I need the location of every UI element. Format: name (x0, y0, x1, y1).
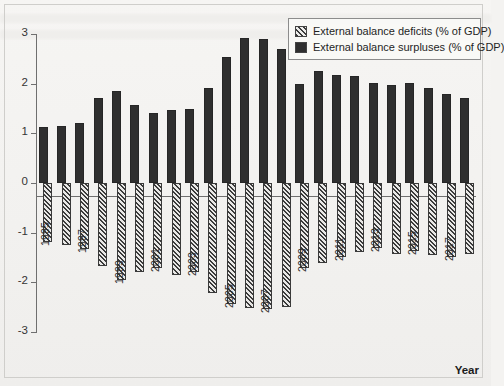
bar-surplus (130, 105, 139, 183)
bar-deficit (135, 183, 144, 272)
y-axis-tick-label: 2 (2, 76, 28, 88)
legend-label-surpluses: External balance surpluses (% of GDP) (313, 41, 504, 53)
bar-deficit (465, 183, 474, 254)
x-axis-tick-label: 2017 (443, 237, 455, 261)
bar-deficit (392, 183, 401, 254)
x-axis-tick-label: 2007 (259, 288, 271, 312)
bar-surplus (204, 88, 213, 183)
x-axis-tick-label: 2001 (149, 248, 161, 272)
y-axis-tick-label: 0 (2, 175, 28, 187)
bar-deficit (245, 183, 254, 308)
bar-surplus (387, 85, 396, 183)
bar-deficit (172, 183, 181, 275)
legend-swatch-surpluses-icon (295, 42, 307, 53)
bar-surplus (112, 91, 121, 183)
bar-deficit (355, 183, 364, 252)
bar-surplus (460, 98, 469, 183)
bar-surplus (167, 110, 176, 183)
y-axis-tick-label: 3 (2, 26, 28, 38)
legend-item: External balance surpluses (% of GDP) (295, 41, 474, 53)
bar-surplus (240, 38, 249, 183)
bar-deficit (208, 183, 217, 293)
bar-deficit (62, 183, 71, 245)
legend-item: External balance deficits (% of GDP) (295, 25, 474, 37)
bar-deficit (98, 183, 107, 266)
x-axis-tick-label: 1995 (39, 221, 51, 245)
x-axis-tick-label: 2009 (296, 248, 308, 272)
bar-surplus (369, 83, 378, 183)
bar-surplus (57, 126, 66, 183)
bar-deficit (428, 183, 437, 255)
bar-surplus (259, 39, 268, 183)
y-axis-tick-label: -3 (2, 324, 28, 336)
bar-surplus (405, 83, 414, 183)
x-axis-tick-label: 2005 (223, 284, 235, 308)
bar-surplus (222, 57, 231, 183)
chart-legend: External balance deficits (% of GDP) Ext… (288, 18, 481, 60)
bar-deficit (318, 183, 327, 263)
x-axis-tick-label: 1999 (113, 260, 125, 284)
legend-swatch-deficits-icon (295, 26, 307, 37)
x-axis-tick-label: 2015 (406, 231, 418, 255)
bar-surplus (295, 84, 304, 183)
bar-surplus (39, 127, 48, 183)
x-axis-tick-label: 2013 (369, 227, 381, 251)
x-axis-tick-label: 2011 (333, 237, 345, 260)
x-axis-tick-label: 2003 (186, 252, 198, 276)
legend-label-deficits: External balance deficits (% of GDP) (313, 25, 492, 37)
y-axis-tick-label: 1 (2, 125, 28, 137)
bar-surplus (332, 75, 341, 183)
bar-surplus (94, 98, 103, 183)
bar-series-area: 1995199719992001200320052007200920112013… (36, 34, 476, 332)
bar-surplus (350, 76, 359, 183)
bar-surplus (185, 109, 194, 183)
x-axis-tick-label: 1997 (76, 229, 88, 253)
y-axis-tick-label: -1 (2, 225, 28, 237)
y-axis-tick (31, 332, 37, 333)
bar-surplus (442, 94, 451, 183)
bar-surplus (149, 113, 158, 183)
x-axis-title: Year (455, 364, 479, 376)
bar-surplus (424, 88, 433, 183)
bar-surplus (314, 71, 323, 183)
bar-deficit (282, 183, 291, 307)
y-axis-tick-label: -2 (2, 274, 28, 286)
bar-surplus (277, 49, 286, 183)
bar-surplus (75, 123, 84, 183)
